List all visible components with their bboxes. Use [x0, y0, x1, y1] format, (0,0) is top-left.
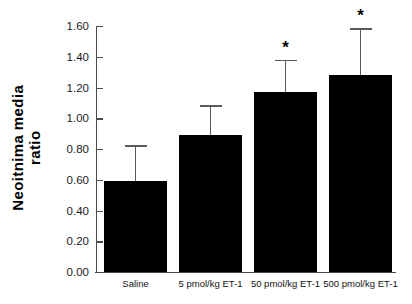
error-bar-cap-2	[275, 60, 297, 62]
y-tick-mark	[97, 272, 103, 273]
bar-3	[329, 75, 392, 272]
y-tick-label: 0.00	[67, 266, 89, 278]
y-tick-mark	[97, 241, 103, 242]
error-bar-stem-1	[210, 105, 211, 135]
error-bar-cap-1	[200, 105, 222, 107]
significance-star-2: *	[282, 39, 289, 56]
error-bar-stem-2	[285, 60, 286, 92]
y-axis-title: Neoitnima media ratio	[4, 40, 50, 255]
y-tick-label: 1.40	[67, 51, 89, 63]
significance-star-3: *	[357, 7, 364, 24]
bar-chart-figure: Neoitnima media ratio 0.000.200.400.600.…	[0, 0, 412, 304]
y-tick-mark	[97, 88, 103, 89]
y-tick-mark	[97, 118, 103, 119]
y-tick-label: 1.60	[67, 20, 89, 32]
x-tick-label-0: Saline	[122, 278, 148, 289]
y-tick-mark	[97, 211, 103, 212]
x-axis-line	[95, 272, 396, 273]
y-tick-label: 0.20	[67, 235, 89, 247]
y-tick-mark	[97, 149, 103, 150]
x-tick-label-2: 50 pmol/kg ET-1	[251, 278, 320, 289]
y-tick-label: 0.40	[67, 205, 89, 217]
x-tick-label-1: 5 pmol/kg ET-1	[179, 278, 243, 289]
y-tick-mark	[97, 57, 103, 58]
error-bar-stem-0	[135, 145, 136, 181]
bar-0	[104, 181, 167, 272]
bar-1	[179, 135, 242, 272]
y-tick-label: 1.00	[67, 112, 89, 124]
y-tick-mark	[97, 180, 103, 181]
y-axis-title-line-2: ratio	[27, 84, 44, 210]
plot-area: 0.000.200.400.600.801.001.201.401.60 ** …	[96, 26, 396, 272]
x-tick-label-3: 500 pmol/kg ET-1	[323, 278, 397, 289]
y-tick-label: 0.80	[67, 143, 89, 155]
y-tick-mark	[97, 26, 103, 27]
y-tick-label: 1.20	[67, 82, 89, 94]
y-tick-label: 0.60	[67, 174, 89, 186]
error-bar-stem-3	[360, 28, 361, 75]
y-axis-title-text: Neoitnima media ratio	[10, 84, 44, 210]
y-axis-title-line-1: Neoitnima media	[9, 84, 26, 210]
bar-2	[254, 92, 317, 272]
error-bar-cap-3	[350, 28, 372, 30]
error-bar-cap-0	[125, 145, 147, 147]
